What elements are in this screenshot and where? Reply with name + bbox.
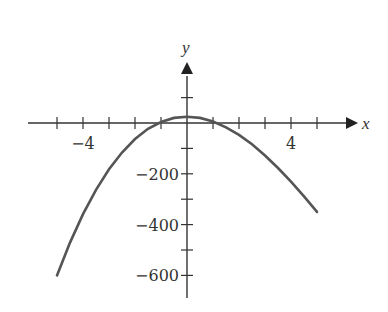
y-tick-label: −400 xyxy=(135,216,179,235)
x-axis-arrow-icon xyxy=(346,117,358,129)
y-axis-label: y xyxy=(180,38,190,57)
x-axis: −44 x xyxy=(28,114,370,153)
y-tick-label: −600 xyxy=(135,266,179,285)
x-tick-label: 4 xyxy=(286,134,296,153)
chart: −44 x −200−400−600 y xyxy=(0,0,388,312)
x-axis-label: x xyxy=(361,114,370,133)
x-tick-label: −4 xyxy=(71,134,95,153)
y-axis: −200−400−600 y xyxy=(135,38,193,298)
y-ticks: −200−400−600 xyxy=(135,98,193,286)
y-axis-arrow-icon xyxy=(181,62,193,74)
y-tick-label: −200 xyxy=(135,165,179,184)
